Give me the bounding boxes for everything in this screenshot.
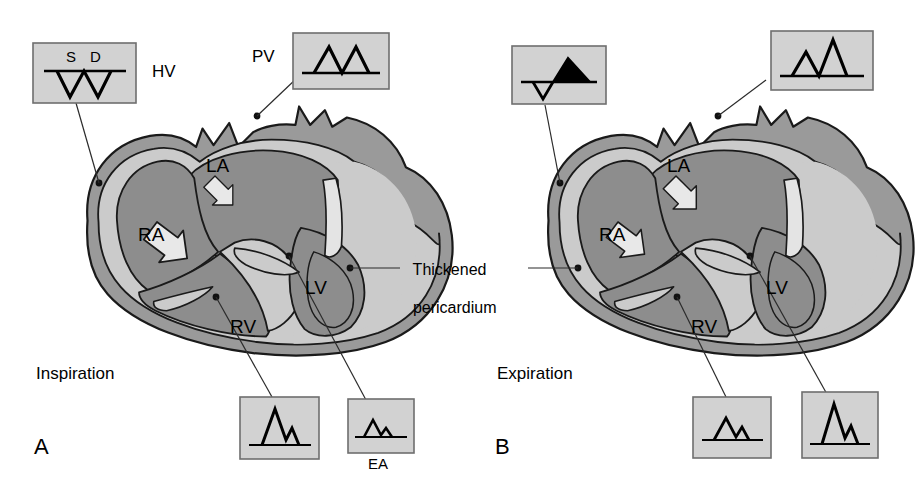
chamber-label-ra-b: RA (599, 224, 625, 246)
pulmonary-vein-box-b[interactable] (771, 31, 873, 90)
panel-label-b: B (495, 434, 510, 460)
phase-label-a: Inspiration (36, 364, 114, 384)
phase-label-b: Expiration (497, 364, 573, 384)
chamber-label-rv-a: RV (230, 316, 256, 338)
tricuspid-inflow-box-a[interactable] (240, 397, 319, 459)
mitral-ea-label-a: EA (368, 455, 388, 472)
mitral-inflow-box-b[interactable] (802, 392, 878, 458)
hv-site-label-a: HV (152, 62, 176, 82)
pericardium-annotation-line2: pericardium (413, 299, 497, 316)
pv-site-label-a: PV (252, 47, 275, 67)
hepatic-vein-box-a[interactable] (33, 43, 136, 103)
panel-a (33, 33, 453, 459)
chamber-label-rv-b: RV (691, 316, 717, 338)
leader-hv-a (76, 103, 99, 183)
hv-s-wave-label-a: S (66, 48, 76, 65)
chamber-label-la-b: LA (667, 155, 690, 177)
panel-b (512, 31, 914, 458)
chamber-label-lv-b: LV (766, 277, 788, 299)
leader-hv-b (545, 105, 560, 183)
leader-pv-a (257, 78, 297, 116)
chamber-label-ra-a: RA (138, 224, 164, 246)
tricuspid-inflow-box-b[interactable] (693, 397, 771, 458)
pulmonary-vein-box-a[interactable] (293, 33, 389, 89)
figure-canvas: HV S D PV EA RA LA RV LV Inspiration A R… (0, 0, 922, 502)
pericardium-annotation-line1: Thickened (413, 261, 487, 278)
chamber-label-lv-a: LV (305, 277, 327, 299)
mitral-inflow-box-a[interactable] (348, 399, 414, 453)
hepatic-vein-box-b[interactable] (512, 46, 606, 104)
chamber-label-la-a: LA (206, 155, 229, 177)
panel-label-a: A (34, 434, 49, 460)
hv-d-wave-label-a: D (90, 48, 101, 65)
